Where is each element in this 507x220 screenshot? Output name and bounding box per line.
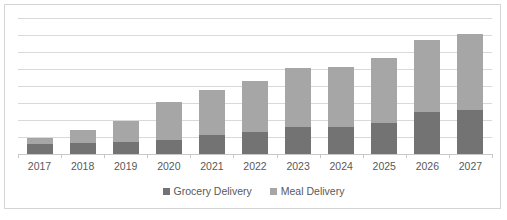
bar-segment-meal-delivery[interactable] <box>156 102 182 139</box>
x-axis-tick <box>61 154 62 158</box>
x-axis-label-2022: 2022 <box>234 159 276 173</box>
x-axis-tick <box>406 154 407 158</box>
x-axis-tick-labels: 2017201820192020202120222023202420252026… <box>18 159 492 175</box>
x-axis-label-2020: 2020 <box>148 159 190 173</box>
x-axis-tick <box>320 154 321 158</box>
chart-legend: Grocery DeliveryMeal Delivery <box>0 185 507 197</box>
x-axis-tick <box>18 154 19 158</box>
bar-segment-meal-delivery[interactable] <box>285 68 311 127</box>
bar-segment-meal-delivery[interactable] <box>457 34 483 110</box>
bar-segment-grocery-delivery[interactable] <box>328 127 354 154</box>
legend-label: Grocery Delivery <box>174 185 252 197</box>
x-axis-label-2019: 2019 <box>105 159 147 173</box>
x-axis-tick <box>147 154 148 158</box>
bar-segment-meal-delivery[interactable] <box>70 130 96 143</box>
legend-item-grocery[interactable]: Grocery Delivery <box>163 185 252 197</box>
bar-segment-meal-delivery[interactable] <box>242 81 268 132</box>
bar-stack-2019[interactable] <box>113 121 139 154</box>
bar-stack-2023[interactable] <box>285 68 311 154</box>
x-axis-line <box>18 154 492 155</box>
legend-label: Meal Delivery <box>281 185 345 197</box>
x-axis-tick <box>363 154 364 158</box>
bar-segment-grocery-delivery[interactable] <box>457 110 483 154</box>
bar-stack-2024[interactable] <box>328 67 354 154</box>
x-axis-label-2027: 2027 <box>449 159 491 173</box>
bar-stack-2020[interactable] <box>156 102 182 154</box>
bar-stack-2026[interactable] <box>414 40 440 154</box>
bar-segment-grocery-delivery[interactable] <box>371 123 397 154</box>
bar-stack-2022[interactable] <box>242 81 268 154</box>
chart-figure: 2017201820192020202120222023202420252026… <box>0 0 507 220</box>
bar-segment-grocery-delivery[interactable] <box>27 144 53 154</box>
bar-segment-meal-delivery[interactable] <box>328 67 354 127</box>
bar-segment-meal-delivery[interactable] <box>371 58 397 123</box>
bar-stack-2017[interactable] <box>27 138 53 154</box>
bar-segment-grocery-delivery[interactable] <box>70 143 96 154</box>
x-axis-tick <box>233 154 234 158</box>
x-axis-label-2017: 2017 <box>19 159 61 173</box>
bar-segment-meal-delivery[interactable] <box>113 121 139 142</box>
x-axis-tick <box>449 154 450 158</box>
x-axis-tick <box>277 154 278 158</box>
legend-swatch-icon <box>163 188 170 195</box>
x-axis-label-2025: 2025 <box>363 159 405 173</box>
x-axis-tick <box>190 154 191 158</box>
x-axis-tick <box>104 154 105 158</box>
x-axis-label-2018: 2018 <box>62 159 104 173</box>
bar-segment-grocery-delivery[interactable] <box>414 112 440 155</box>
x-axis-label-2021: 2021 <box>191 159 233 173</box>
legend-swatch-icon <box>270 188 277 195</box>
bar-segment-meal-delivery[interactable] <box>414 40 440 111</box>
bar-segment-grocery-delivery[interactable] <box>199 135 225 154</box>
bar-stack-2018[interactable] <box>70 130 96 154</box>
bar-segment-meal-delivery[interactable] <box>199 90 225 135</box>
bar-segment-grocery-delivery[interactable] <box>156 140 182 154</box>
bar-stack-2027[interactable] <box>457 34 483 154</box>
bar-segment-grocery-delivery[interactable] <box>242 132 268 154</box>
x-axis-label-2024: 2024 <box>320 159 362 173</box>
x-axis-tick <box>492 154 493 158</box>
bar-stack-2021[interactable] <box>199 90 225 154</box>
bar-stack-2025[interactable] <box>371 58 397 154</box>
chart-bars <box>18 18 492 154</box>
bar-segment-grocery-delivery[interactable] <box>113 142 139 154</box>
bar-segment-grocery-delivery[interactable] <box>285 127 311 154</box>
x-axis-label-2026: 2026 <box>406 159 448 173</box>
x-axis-label-2023: 2023 <box>277 159 319 173</box>
legend-item-meal[interactable]: Meal Delivery <box>270 185 345 197</box>
